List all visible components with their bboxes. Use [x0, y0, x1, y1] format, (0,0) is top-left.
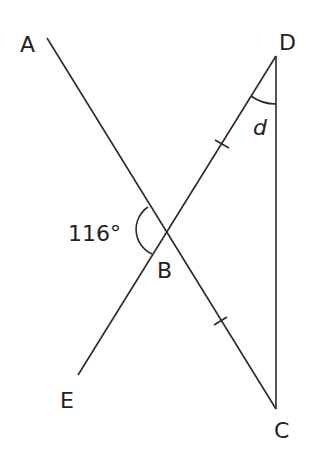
angle-arc-B [136, 207, 152, 254]
angle-label-d: d [253, 115, 268, 140]
point-label-A: A [20, 32, 35, 57]
angle-label-116: 116° [68, 221, 121, 246]
equal-tick-DB [215, 140, 229, 148]
point-label-B: B [157, 258, 172, 283]
angle-arc-D [251, 96, 276, 104]
line-DE [78, 56, 276, 375]
point-label-E: E [60, 388, 74, 413]
geometry-diagram: A D B E C 116° d [0, 0, 311, 467]
point-label-C: C [274, 418, 289, 443]
point-label-D: D [279, 30, 296, 55]
